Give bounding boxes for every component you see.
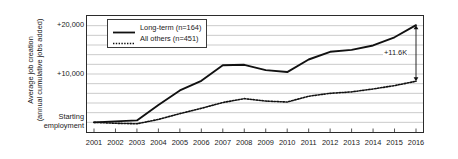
y-tick-label-baseline: Starting employment [32,113,84,131]
x-tick-label-2016: 2016 [408,138,424,147]
x-tick-label-2013: 2013 [343,138,359,147]
x-tick-label-2015: 2015 [386,138,402,147]
x-tick-label-2008: 2008 [236,138,252,147]
x-tick-label-2007: 2007 [215,138,231,147]
x-tick-label-2009: 2009 [257,138,273,147]
x-tick-label-2004: 2004 [150,138,166,147]
legend-swatch-dotted-line [113,34,135,43]
annotation-label: +11.6K [383,48,408,57]
legend-label-all-others: All others (n=451) [140,34,199,43]
x-tick-label-2012: 2012 [322,138,338,147]
y-tick-label-10000: +10,000 [32,70,84,79]
job-creation-line-chart: Average job creation (annual cumulative … [0,0,458,159]
x-tick-label-2003: 2003 [129,138,145,147]
x-tick-label-2001: 2001 [86,138,102,147]
x-tick-label-2002: 2002 [107,138,123,147]
x-axis-tick-labels: 2001200220032004200520062007200820092010… [86,138,424,152]
legend-label-long-term: Long-term (n=164) [140,23,201,32]
chart-legend: Long-term (n=164) All others (n=451) [107,19,207,48]
annotation-arrow [414,25,419,81]
y-tick-label-baseline-line-2: employment [32,122,84,131]
x-tick-label-2006: 2006 [193,138,209,147]
legend-item-long-term: Long-term (n=164) [113,22,201,33]
legend-item-all-others: All others (n=451) [113,33,201,44]
x-tick-label-2010: 2010 [279,138,295,147]
y-axis-tick-labels: +20,000 +10,000 Starting employment [30,0,84,140]
y-axis-title: Average job creation (annual cumulative … [0,0,32,140]
legend-swatch-solid-line [113,23,135,32]
y-tick-label-20000: +20,000 [32,21,84,30]
x-tick-label-2005: 2005 [172,138,188,147]
x-axis-tick-marks [94,129,416,133]
x-tick-label-2011: 2011 [301,138,317,147]
x-tick-label-2014: 2014 [365,138,381,147]
